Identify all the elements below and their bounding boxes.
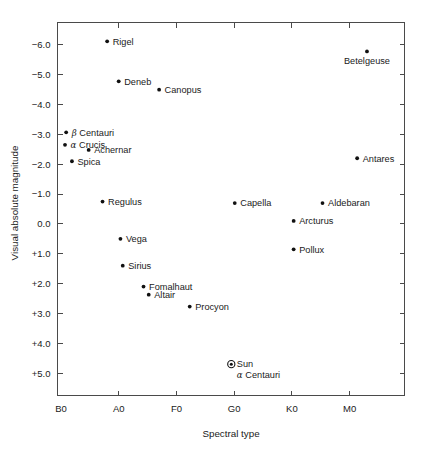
point-label: Spica — [77, 157, 101, 167]
y-tick-label: +4.0 — [32, 338, 51, 349]
data-point[interactable]: Achernar — [87, 145, 132, 155]
point-label: Altair — [154, 290, 175, 300]
point-marker — [117, 79, 121, 83]
point-label-text: Aldebaran — [328, 198, 370, 208]
y-axis-ticks: −6.0−5.0−4.0−3.0−2.0−1.00.0+1.0+2.0+3.0+… — [32, 39, 405, 378]
point-label-text: Capella — [240, 198, 272, 208]
point-label-text: Achernar — [94, 145, 131, 155]
y-axis-title: Visual absolute magnitude — [9, 145, 20, 260]
data-point[interactable]: Antares — [355, 154, 394, 164]
point-label-text: Deneb — [124, 77, 151, 87]
data-point[interactable]: Aldebaran — [321, 198, 370, 208]
greek-letter: β — [71, 128, 80, 138]
point-marker — [70, 159, 74, 163]
point-marker — [119, 237, 123, 241]
y-tick-label: +1.0 — [32, 248, 51, 259]
data-point[interactable]: Procyon — [188, 302, 229, 312]
point-label: Sun — [237, 359, 253, 369]
point-label-text: Betelgeuse — [344, 56, 390, 66]
point-label: Procyon — [195, 302, 229, 312]
point-marker — [101, 200, 105, 204]
point-label-text: Sun — [237, 359, 253, 369]
point-marker — [121, 264, 125, 268]
data-point[interactable]: Vega — [119, 234, 148, 244]
y-tick-label: −2.0 — [32, 159, 51, 170]
data-point[interactable]: Deneb — [117, 77, 151, 87]
data-point[interactable]: Canopus — [157, 85, 202, 95]
point-marker — [87, 148, 91, 152]
point-label: Deneb — [124, 77, 151, 87]
point-label: Antares — [363, 154, 395, 164]
point-marker — [188, 305, 192, 309]
point-label-text: Canopus — [165, 85, 202, 95]
point-label-secondary: α Centauri — [237, 370, 280, 380]
point-label-text: Sirius — [128, 261, 151, 271]
point-label: Regulus — [108, 197, 142, 207]
point-marker — [233, 201, 237, 205]
plot-frame — [58, 23, 405, 396]
data-points: RigelBetelgeuseDenebCanopusβ Centauriα C… — [63, 37, 395, 381]
x-axis-title: Spectral type — [202, 428, 260, 439]
data-point[interactable]: Sirius — [121, 261, 152, 271]
data-point[interactable]: Rigel — [105, 37, 133, 47]
point-label: β Centauri — [71, 128, 114, 138]
point-marker — [365, 50, 369, 54]
point-label: Sirius — [128, 261, 151, 271]
data-point[interactable]: Capella — [233, 198, 272, 208]
point-label-text: Altair — [154, 290, 175, 300]
data-point[interactable]: Spica — [70, 157, 101, 167]
data-point[interactable]: Betelgeuse — [344, 50, 390, 67]
y-tick-label: +5.0 — [32, 368, 51, 379]
point-label-text: Procyon — [195, 302, 229, 312]
point-marker — [142, 285, 146, 289]
y-tick-label: −3.0 — [32, 129, 51, 140]
y-tick-label: −1.0 — [32, 188, 51, 199]
point-marker — [105, 39, 109, 43]
point-label-text: Antares — [363, 154, 395, 164]
point-label: Vega — [126, 234, 148, 244]
point-marker — [157, 88, 161, 92]
point-label-text: Centauri — [245, 370, 280, 380]
point-label-text: Regulus — [108, 197, 142, 207]
x-tick-label: M0 — [343, 403, 356, 414]
y-tick-label: −5.0 — [32, 69, 51, 80]
x-tick-label: A0 — [113, 403, 125, 414]
point-label-text: Centauri — [79, 128, 114, 138]
greek-letter: α — [71, 140, 80, 150]
data-point[interactable]: Sunα Centauri — [228, 359, 280, 380]
point-label-text: Arcturus — [299, 216, 334, 226]
point-label: Achernar — [94, 145, 131, 155]
y-tick-label: 0.0 — [37, 218, 50, 229]
point-marker — [355, 156, 359, 160]
point-marker — [64, 130, 68, 134]
x-tick-label: B0 — [55, 403, 67, 414]
point-marker — [63, 143, 67, 147]
sun-marker-dot — [230, 363, 233, 366]
x-tick-label: G0 — [228, 403, 241, 414]
point-label: Rigel — [113, 37, 134, 47]
y-tick-label: −6.0 — [32, 39, 51, 50]
data-point[interactable]: Regulus — [101, 197, 143, 207]
point-label-text: Pollux — [299, 245, 324, 255]
point-label: Arcturus — [299, 216, 334, 226]
x-tick-label: K0 — [286, 403, 298, 414]
x-tick-label: F0 — [171, 403, 182, 414]
point-marker — [321, 201, 325, 205]
plot-frame-rect — [58, 23, 405, 396]
point-marker — [147, 293, 151, 297]
y-tick-label: −4.0 — [32, 99, 51, 110]
point-label-text: Rigel — [113, 37, 134, 47]
greek-letter: α — [237, 370, 246, 380]
y-tick-label: +3.0 — [32, 308, 51, 319]
point-label: Pollux — [299, 245, 324, 255]
point-marker — [292, 247, 296, 251]
point-label-text: Spica — [77, 157, 101, 167]
scatter-plot-svg: −6.0−5.0−4.0−3.0−2.0−1.00.0+1.0+2.0+3.0+… — [0, 0, 426, 457]
point-label: Aldebaran — [328, 198, 370, 208]
data-point[interactable]: Arcturus — [292, 216, 334, 226]
point-marker — [292, 219, 296, 223]
hr-diagram-chart: −6.0−5.0−4.0−3.0−2.0−1.00.0+1.0+2.0+3.0+… — [0, 0, 426, 457]
data-point[interactable]: Pollux — [292, 245, 325, 255]
point-label: Betelgeuse — [344, 56, 390, 66]
data-point[interactable]: β Centauri — [64, 128, 114, 138]
